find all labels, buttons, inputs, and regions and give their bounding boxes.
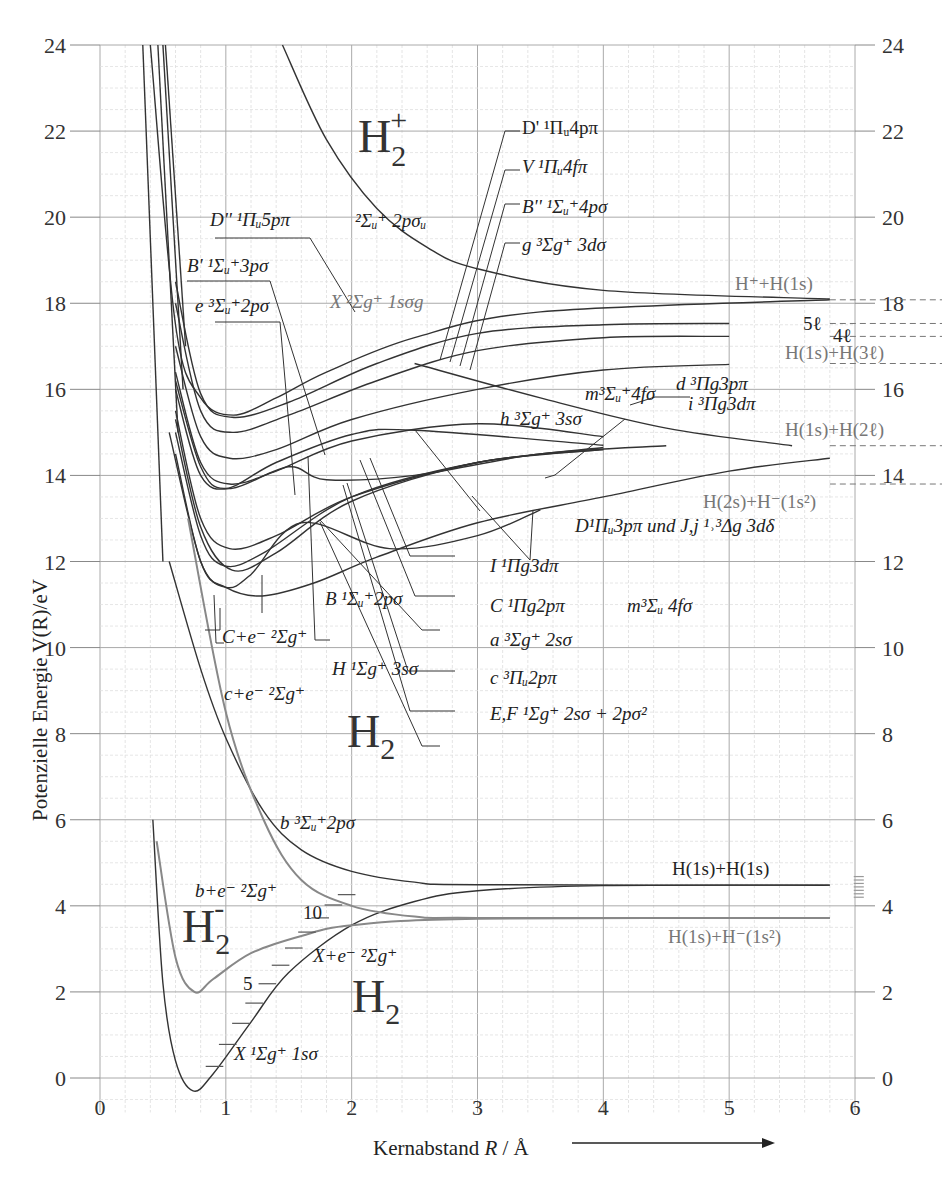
label-i1-3dpi: I ¹Πg3dπ [489, 555, 559, 576]
y-tick-right: 20 [882, 205, 904, 230]
label-sigma-u-2psigma: ²Σᵤ⁺ 2pσᵤ [355, 210, 426, 231]
curve-labels: H2+ H2 H2 H2- ²Σᵤ⁺ 2pσᵤ X ²Σg⁺ 1sσg D'' … [182, 103, 884, 1064]
label-c3-2ppi: c ³Πᵤ2pπ [490, 667, 557, 688]
x-tick: 6 [850, 1095, 861, 1120]
y-tick-right: 8 [882, 722, 893, 747]
label-5l: 5ℓ [803, 313, 822, 334]
y-tick-right: 12 [882, 550, 904, 575]
label-h2-main: H2 [347, 706, 395, 765]
y-tick-left: 14 [44, 463, 66, 488]
label-d2-5ppi: D'' ¹Πᵤ5pπ [209, 209, 291, 230]
y-tick-left: 12 [44, 550, 66, 575]
label-b3-2psigma: b ³Σᵤ⁺2pσ [280, 812, 356, 833]
x-tick: 0 [95, 1095, 106, 1120]
label-h1-3ssigma: H ¹Σg⁺ 3sσ [331, 658, 419, 679]
label-ef: E,F ¹Σg⁺ 2sσ + 2pσ² [489, 703, 647, 724]
label-h1s-h3l: H(1s)+H(3ℓ) [785, 342, 884, 364]
label-h1s-hminus: H(1s)+H⁻(1s²) [668, 926, 781, 948]
label-c-small-plus-e: c+e⁻ ²Σg⁺ [224, 683, 305, 704]
label-h1s-h1s: H(1s)+H(1s) [672, 858, 769, 880]
y-tick-right: 14 [882, 463, 904, 488]
label-h-3ssigma: h ³Σg⁺ 3sσ [500, 408, 582, 429]
label-c-plus-e: C+e⁻ ²Σg⁺ [222, 626, 307, 647]
label-h2s-hminus: H(2s)+H⁻(1s²) [703, 491, 816, 513]
x-tick: 4 [598, 1095, 609, 1120]
y-tick-left: 8 [55, 722, 66, 747]
label-b-plus-e: b+e⁻ ²Σg⁺ [195, 880, 277, 901]
y-tick-left: 20 [44, 205, 66, 230]
y-tick-left: 18 [44, 291, 66, 316]
y-tick-left: 0 [55, 1066, 66, 1091]
label-h1s-h2l: H(1s)+H(2ℓ) [785, 419, 884, 441]
y-tick-left: 24 [44, 33, 66, 58]
label-d1-und-j: D¹Πᵤ3pπ und J,j ¹˒³Δg 3dδ [574, 515, 776, 536]
label-h2-lower: H2 [352, 971, 400, 1030]
label-m3-4fsigma: m³Σᵤ 4fσ [627, 595, 693, 616]
x-axis-arrow [572, 1138, 775, 1148]
label-b1-2psigma: B ¹Σᵤ⁺2pσ [325, 588, 403, 609]
label-e-2psigma: e ³Σᵤ⁺2pσ [195, 295, 270, 316]
label-vib-10: 10 [303, 902, 322, 923]
y-tick-right: 0 [882, 1066, 893, 1091]
label-a3-2ssigma: a ³Σg⁺ 2sσ [490, 629, 572, 650]
label-bprime-3psigma: B' ¹Σᵤ⁺3pσ [187, 255, 269, 276]
curve [176, 381, 604, 489]
y-tick-right: 2 [882, 980, 893, 1005]
y-tick-right: 6 [882, 808, 893, 833]
label-i-3dpi: i ³Πg3dπ [688, 393, 756, 414]
y-tick-right: 24 [882, 33, 904, 58]
y-tick-left: 4 [55, 894, 66, 919]
x-tick: 3 [472, 1095, 483, 1120]
label-v-4fpi: V ¹Πᵤ4fπ [522, 156, 588, 177]
x-axis-title: Kernabstand R / Å [373, 1136, 530, 1160]
x-tick: 1 [220, 1095, 231, 1120]
label-b2-4psigma: B'' ¹Σᵤ⁺4pσ [522, 196, 608, 217]
label-dprime-4ppi: D' ¹Πᵤ4pπ [522, 117, 599, 138]
grid [100, 45, 855, 1112]
label-vib-5: 5 [243, 973, 253, 994]
y-tick-right: 4 [882, 894, 893, 919]
label-hplus-h1s: H⁺+H(1s) [735, 273, 813, 295]
curve [176, 389, 667, 489]
y-axis-title: Potenzielle Energie V(R)/eV [28, 579, 52, 821]
label-h2plus: H2+ [358, 103, 407, 172]
label-m-4fsigma: m³Σᵤ⁺4fσ [585, 383, 656, 404]
y-tick-left: 16 [44, 377, 66, 402]
x-tick: 2 [346, 1095, 357, 1120]
label-d3-3ppi: d ³Πg3pπ [676, 373, 748, 394]
y-tick-right: 22 [882, 119, 904, 144]
y-tick-left: 2 [55, 980, 66, 1005]
curve [176, 432, 604, 566]
y-tick-left: 22 [44, 119, 66, 144]
y-tick-right: 18 [882, 291, 904, 316]
y-tick-right: 10 [882, 636, 904, 661]
x-tick: 5 [724, 1095, 735, 1120]
label-x1-1ssigma: X ¹Σg⁺ 1sσ [233, 1043, 319, 1064]
label-g-3dsigma: g ³Σg⁺ 3dσ [522, 234, 607, 255]
label-x2-sigma-g: X ²Σg⁺ 1sσg [329, 291, 423, 312]
potential-energy-chart: 0022446688101012121414161618182020222224… [0, 0, 942, 1181]
label-x-plus-e: X+e⁻ ²Σg⁺ [312, 945, 397, 966]
curve [150, 45, 830, 415]
label-h2minus: H2- [182, 891, 230, 960]
y-tick-right: 16 [882, 377, 904, 402]
y-tick-left: 6 [55, 808, 66, 833]
label-c1-2ppi: C ¹Πg2pπ [490, 595, 565, 616]
